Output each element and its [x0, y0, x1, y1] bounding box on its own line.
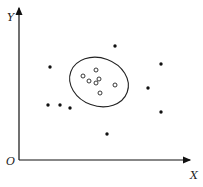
open-point — [98, 91, 102, 95]
filled-point — [113, 44, 116, 47]
origin-label: O — [6, 155, 15, 168]
y-axis-label: Y — [7, 11, 16, 24]
filled-point — [146, 86, 149, 89]
open-point — [113, 83, 117, 87]
filled-point — [68, 106, 71, 109]
filled-point — [46, 103, 49, 106]
cluster-points — [81, 68, 117, 95]
filled-point — [48, 65, 51, 68]
open-point — [97, 77, 101, 81]
filled-point — [58, 103, 61, 106]
filled-point — [159, 62, 162, 65]
open-point — [94, 68, 98, 72]
cluster-boundary — [63, 49, 136, 115]
filled-point — [105, 132, 108, 135]
filled-point — [159, 110, 162, 113]
open-point — [81, 74, 85, 78]
x-axis-label: X — [189, 169, 199, 182]
scatter-diagram: Y X O — [0, 0, 203, 187]
open-point — [87, 79, 91, 83]
open-point — [94, 81, 98, 85]
